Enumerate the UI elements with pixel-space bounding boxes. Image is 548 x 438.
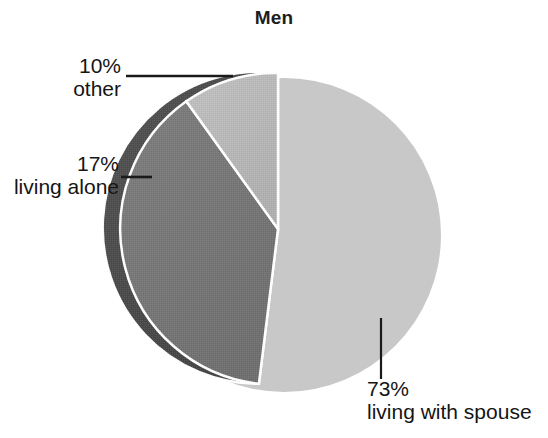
slice-label-other: 10% other [0,54,121,100]
slice-description-living-with-spouse: living with spouse [367,400,532,423]
pie-chart-figure: Men [0,0,548,438]
slice-description-other: other [0,77,121,100]
slice-percent-other: 10% [0,54,121,77]
slice-label-living-alone: 17% living alone [0,152,119,198]
slice-percent-living-with-spouse: 73% [367,377,532,400]
slice-description-living-alone: living alone [0,175,119,198]
slice-percent-living-alone: 17% [0,152,119,175]
slice-label-living-with-spouse: 73% living with spouse [367,377,532,423]
